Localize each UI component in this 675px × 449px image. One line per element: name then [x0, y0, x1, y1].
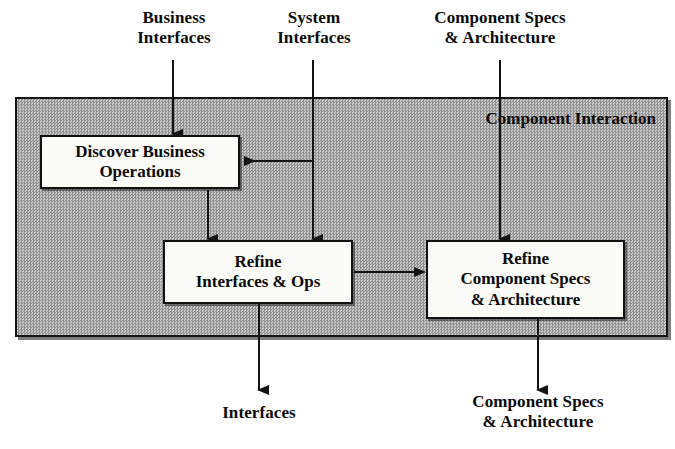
diagram-canvas: Business Interfaces System Interfaces Co… — [0, 0, 675, 449]
node-refine-interfaces-ops[interactable]: Refine Interfaces & Ops — [163, 240, 353, 304]
node-refine-component-specs-architecture[interactable]: Refine Component Specs & Architecture — [426, 240, 625, 319]
node-discover-business-operations[interactable]: Discover Business Operations — [40, 135, 240, 189]
diagram-edges — [0, 0, 675, 449]
output-label-interfaces: Interfaces — [189, 403, 329, 423]
output-label-component-specs-architecture: Component Specs & Architecture — [442, 392, 634, 432]
